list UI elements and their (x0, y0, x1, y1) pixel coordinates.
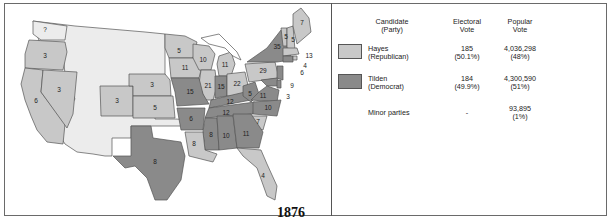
election-year: 1876 (277, 205, 305, 221)
svg-text:7: 7 (256, 118, 260, 125)
svg-text:11: 11 (182, 64, 189, 71)
state-rhode-island (293, 56, 297, 60)
swatch-democrat (338, 74, 362, 89)
state-minnesota (165, 34, 197, 58)
svg-text:22: 22 (233, 80, 241, 87)
svg-text:5: 5 (153, 104, 157, 111)
swatch-republican (338, 44, 362, 59)
svg-text:11: 11 (260, 92, 267, 99)
svg-text:21: 21 (204, 82, 212, 89)
state-maine (293, 8, 311, 44)
candidate-minor-parties: Minor parties (368, 109, 410, 117)
svg-text:9: 9 (290, 82, 294, 89)
svg-text:5: 5 (177, 47, 181, 54)
state-connecticut (283, 56, 293, 62)
svg-text:3: 3 (43, 52, 47, 59)
svg-text:11: 11 (243, 130, 250, 137)
svg-text:8: 8 (192, 140, 196, 147)
us-map-svg: ? 3 6 3 3 3 5 5 11 10 11 21 15 22 29 35 … (5, 4, 331, 215)
svg-text:4: 4 (261, 172, 265, 179)
svg-text:35: 35 (273, 43, 281, 50)
svg-text:11: 11 (222, 61, 229, 68)
state-new-jersey (277, 66, 283, 80)
svg-text:5: 5 (291, 36, 295, 43)
candidate-hayes: Hayes (Republican) (368, 45, 409, 61)
svg-text:10: 10 (222, 132, 230, 139)
svg-text:15: 15 (217, 83, 225, 90)
svg-text:12: 12 (226, 98, 234, 105)
electoral-tilden: 184 (49.9%) (444, 75, 490, 91)
svg-text:?: ? (43, 26, 47, 33)
svg-text:3: 3 (115, 97, 119, 104)
svg-text:3: 3 (286, 93, 290, 100)
svg-text:4: 4 (303, 62, 307, 69)
svg-text:8: 8 (153, 158, 157, 165)
svg-text:8: 8 (209, 131, 213, 138)
svg-text:10: 10 (199, 56, 207, 63)
state-florida (237, 148, 277, 200)
svg-text:12: 12 (222, 109, 230, 116)
results-legend: Candidate (Party) Electoral Vote Popular… (332, 4, 606, 215)
svg-text:10: 10 (264, 104, 272, 111)
state-delaware (277, 80, 281, 88)
svg-text:3: 3 (57, 86, 61, 93)
candidate-tilden: Tilden (Democrat) (368, 75, 404, 91)
electoral-minor-parties: - (444, 109, 490, 117)
popular-tilden: 4,300,590 (51%) (495, 75, 545, 91)
popular-minor-parties: 93,895 (1%) (495, 105, 545, 121)
svg-text:7: 7 (300, 19, 304, 26)
state-washington (33, 21, 67, 40)
header-candidate: Candidate (Party) (362, 18, 422, 34)
electoral-hayes: 185 (50.1%) (444, 45, 490, 61)
svg-text:15: 15 (186, 88, 194, 95)
electoral-map: ? 3 6 3 3 3 5 5 11 10 11 21 15 22 29 35 … (5, 4, 331, 215)
svg-text:6: 6 (34, 97, 38, 104)
header-popular-vote: Popular Vote (497, 18, 543, 34)
popular-hayes: 4,036,298 (48%) (495, 45, 545, 61)
svg-text:13: 13 (305, 52, 313, 59)
state-massachusetts (283, 48, 299, 56)
svg-text:29: 29 (259, 67, 267, 74)
svg-text:5: 5 (284, 33, 288, 40)
svg-text:6: 6 (189, 115, 193, 122)
svg-text:6: 6 (300, 69, 304, 76)
svg-text:3: 3 (150, 81, 154, 88)
header-electoral-vote: Electoral Vote (444, 18, 490, 34)
svg-text:5: 5 (248, 90, 252, 97)
